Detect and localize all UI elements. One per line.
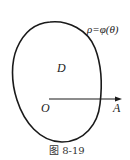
ray-end-label: A (113, 102, 120, 114)
figure-caption: 图 8-19 (49, 146, 85, 156)
curve-equation-label: ρ=φ(θ) (87, 24, 119, 35)
origin-label: O (41, 102, 50, 114)
region-label: D (57, 62, 66, 74)
closed-curve (13, 22, 102, 142)
